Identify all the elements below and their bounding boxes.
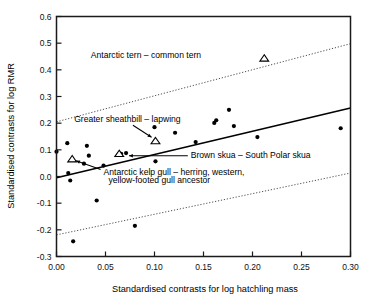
figure-container: 0.000.050.100.150.200.250.30 0.60.50.40.… <box>0 0 371 301</box>
data-point <box>339 126 343 130</box>
x-tick-label: 0.00 <box>48 262 65 272</box>
y-tick-label: 0.3 <box>40 92 52 102</box>
y-tick-label: -0.1 <box>37 198 52 208</box>
data-point <box>227 108 231 112</box>
data-point <box>124 151 128 155</box>
y-tick-label: 0.6 <box>40 12 52 22</box>
y-tick-label: -0.3 <box>37 252 52 262</box>
data-point <box>65 141 69 145</box>
scatter-plot: 0.000.050.100.150.200.250.30 0.60.50.40.… <box>0 0 371 301</box>
y-axis-title: Standardised contrasts for log RMR <box>6 63 16 209</box>
data-point <box>255 135 259 139</box>
x-tick-label: 0.15 <box>195 262 212 272</box>
y-tick-label: 0.5 <box>40 38 52 48</box>
data-point <box>214 118 218 122</box>
data-point <box>85 144 89 148</box>
x-tick-label: 0.20 <box>244 262 261 272</box>
data-point <box>194 140 198 144</box>
annotation-label-brown-skua: Brown skua – South Polar skua <box>191 150 311 160</box>
data-point <box>71 239 75 243</box>
x-tick-label: 0.25 <box>293 262 310 272</box>
y-tick-label: 0.0 <box>40 172 52 182</box>
data-point <box>66 171 70 175</box>
x-axis-title: Standardised contrasts for log hatchling… <box>112 284 298 294</box>
x-tick-label: 0.10 <box>146 262 163 272</box>
y-tick-label: 0.2 <box>40 118 52 128</box>
annotation-label-greater-sheathbill: Greater sheathbill – lapwing <box>74 114 181 124</box>
data-point <box>153 159 157 163</box>
x-tick-label: 0.30 <box>342 262 359 272</box>
data-point <box>95 198 99 202</box>
data-point <box>68 178 72 182</box>
annotation-label-antarctic-tern: Antarctic tern – common tern <box>91 50 202 60</box>
y-tick-label: 0.1 <box>40 145 52 155</box>
y-tick-label: -0.2 <box>37 225 52 235</box>
annotation-label-antarctic-kelp-gull-line2: yellow-footed gull ancestor <box>108 175 210 185</box>
data-point <box>152 125 156 129</box>
data-point <box>232 124 236 128</box>
data-point <box>87 154 91 158</box>
x-tick-label: 0.05 <box>97 262 114 272</box>
data-point <box>173 131 177 135</box>
data-point <box>133 224 137 228</box>
y-tick-label: 0.4 <box>40 65 52 75</box>
